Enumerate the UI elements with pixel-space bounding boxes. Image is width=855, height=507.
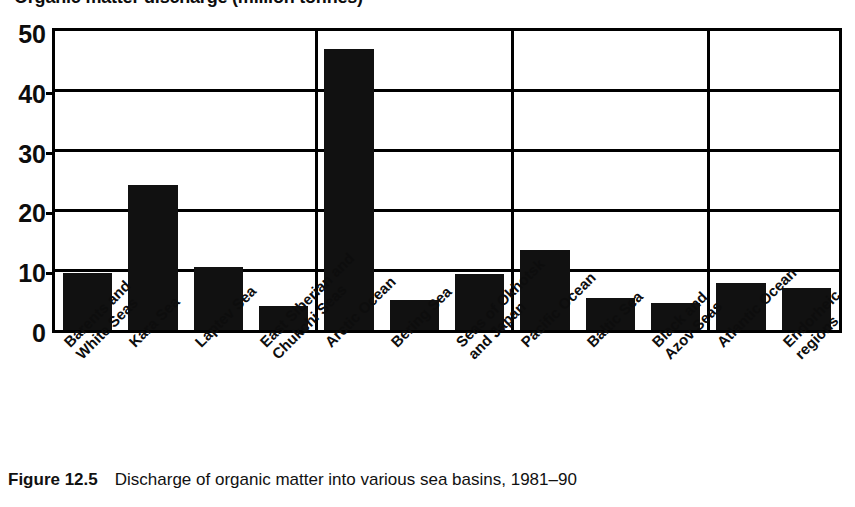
y-axis-tick-label: 0 [2, 321, 46, 346]
y-axis-tick-label: 20 [2, 201, 46, 226]
y-axis-tick-label: 10 [2, 261, 46, 286]
y-axis: 01020304050 [0, 28, 46, 333]
figure-container: Organic matter discharge (million tonnes… [0, 0, 855, 507]
y-axis-tick-label: 30 [2, 142, 46, 167]
plot-inner [55, 31, 839, 330]
gridline [55, 149, 839, 152]
figure-caption-label: Figure 12.5 [8, 470, 98, 489]
x-axis-labels: Barents andWhite SeasKara SeaLaptev SeaE… [52, 333, 842, 453]
figure-caption: Figure 12.5Discharge of organic matter i… [8, 470, 577, 490]
y-axis-tick-label: 40 [2, 82, 46, 107]
figure-caption-text: Discharge of organic matter into various… [115, 470, 577, 489]
y-axis-tick-label: 50 [2, 22, 46, 47]
group-divider [707, 31, 710, 330]
chart-title: Organic matter discharge (million tonnes… [14, 0, 363, 8]
gridline [55, 89, 839, 92]
